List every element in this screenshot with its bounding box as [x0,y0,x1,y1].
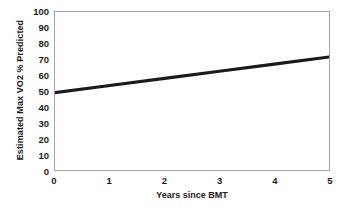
y-tick-label: 0 [44,166,49,177]
x-tick-label: 5 [327,175,332,186]
plot-svg [55,12,329,170]
y-tick-label: 60 [38,70,49,81]
x-tick-label: 4 [272,175,277,186]
y-tick-label: 100 [33,6,49,17]
trend-line-series [55,57,329,93]
y-tick-label: 50 [38,86,49,97]
y-tick-label: 70 [38,54,49,65]
y-tick-label: 20 [38,134,49,145]
y-tick-label: 30 [38,118,49,129]
plot-area [54,11,330,171]
x-axis-tick-labels: 012345 [54,175,330,189]
x-tick-label: 2 [162,175,167,186]
y-axis-tick-labels: 1009080706050403020100 [22,11,49,171]
x-tick-label: 0 [51,175,56,186]
x-tick-label: 1 [107,175,112,186]
y-tick-label: 10 [38,150,49,161]
x-axis-label: Years since BMT [54,190,330,200]
y-tick-label: 80 [38,38,49,49]
chart-figure: Estimated Max VO2 % Predicted 1009080706… [0,0,352,211]
y-tick-label: 90 [38,22,49,33]
x-tick-label: 3 [217,175,222,186]
y-tick-label: 40 [38,102,49,113]
